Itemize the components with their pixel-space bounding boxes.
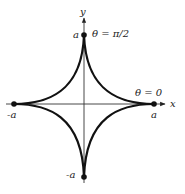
astroid-diagram: y x a -a -a a θ = π/2 θ = 0 [0,0,185,194]
x-axis-label: x [170,98,176,109]
cusp-label-right: a [151,109,157,120]
cusp-label-top: a [73,29,79,40]
annotation-theta-zero: θ = 0 [135,87,163,98]
y-axis-label: y [79,6,86,17]
cusp-label-bottom: -a [66,169,75,180]
cusp-point-left [11,101,17,107]
cusp-point-bottom [81,174,87,180]
annotation-theta-pi-over-2: θ = π/2 [92,28,129,39]
cusp-point-top [81,32,87,38]
cusp-point-right [151,101,157,107]
cusp-label-left: -a [7,109,16,120]
